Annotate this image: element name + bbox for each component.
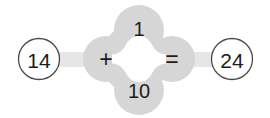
right-term-value: 24: [220, 49, 244, 72]
right-term-node[interactable]: 24: [212, 39, 253, 80]
plus-operator-symbol: +: [99, 46, 112, 72]
number-bond-svg: 14 24 + = 1 10: [0, 0, 270, 118]
bond-top-value: 1: [133, 18, 144, 40]
bond-bottom-value: 10: [128, 80, 150, 102]
diagram-canvas: 14 24 + = 1 10: [0, 0, 270, 118]
equals-relation-symbol: =: [165, 46, 178, 72]
left-term-value: 14: [27, 49, 51, 72]
left-term-node[interactable]: 14: [19, 39, 60, 80]
